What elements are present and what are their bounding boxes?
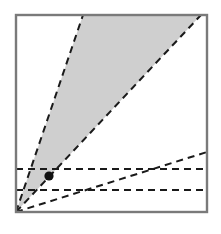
cone-diagram: Shaded cone region diagram A square plot… [0,0,221,234]
figure-container: Shaded cone region diagram A square plot… [0,0,221,234]
marked-point [44,171,53,180]
